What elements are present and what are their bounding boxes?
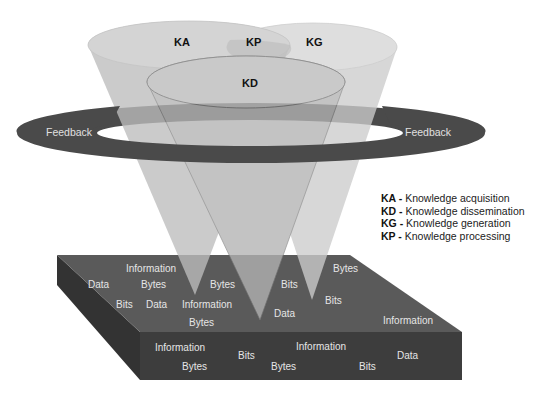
legend-item-kp: KP - Knowledge processing <box>381 230 525 243</box>
slab-front-word: Information <box>155 342 205 353</box>
legend-text: Knowledge generation <box>406 217 511 229</box>
slab-top-word: Bytes <box>189 317 214 328</box>
slab-top-word: Bits <box>116 299 133 310</box>
legend-key: KP <box>381 230 395 242</box>
slab-top-word: Information <box>182 299 232 310</box>
legend-sep: - <box>397 217 406 229</box>
slab-top-word: Information <box>383 315 433 326</box>
slab-front-word: Bits <box>238 350 255 361</box>
slab-top-word: Bytes <box>141 279 166 290</box>
kd-label: KD <box>242 77 258 89</box>
slab-top-word: Bits <box>325 295 342 306</box>
legend: KA - Knowledge acquisition KD - Knowledg… <box>381 192 525 242</box>
slab-top-word: Bits <box>281 279 298 290</box>
feedback-label-right: Feedback <box>405 126 452 138</box>
slab-front-word: Bits <box>359 361 376 372</box>
slab-front-word: Bytes <box>271 361 296 372</box>
kg-label: KG <box>306 36 323 48</box>
ka-label: KA <box>174 36 190 48</box>
legend-item-kd: KD - Knowledge dissemination <box>381 205 525 218</box>
legend-item-ka: KA - Knowledge acquisition <box>381 192 525 205</box>
kp-label: KP <box>246 36 261 48</box>
slab-top-word: Bytes <box>210 279 235 290</box>
legend-sep: - <box>395 230 404 242</box>
legend-key: KG <box>381 217 397 229</box>
feedback-label-left: Feedback <box>46 126 93 138</box>
legend-key: KA <box>381 192 396 204</box>
slab-top-word: Data <box>88 279 110 290</box>
slab-top-word: Data <box>274 308 296 319</box>
legend-sep: - <box>396 205 405 217</box>
legend-sep: - <box>396 192 405 204</box>
slab-top-word: Data <box>146 299 168 310</box>
slab-top-word: Information <box>126 263 176 274</box>
legend-text: Knowledge acquisition <box>405 192 510 204</box>
legend-item-kg: KG - Knowledge generation <box>381 217 525 230</box>
slab-front-word: Bytes <box>182 361 207 372</box>
legend-text: Knowledge processing <box>405 230 511 242</box>
slab-front-word: Data <box>397 350 419 361</box>
slab-top-word: Bytes <box>333 263 358 274</box>
legend-key: KD <box>381 205 396 217</box>
slab-front-word: Information <box>296 341 346 352</box>
legend-text: Knowledge dissemination <box>406 205 525 217</box>
